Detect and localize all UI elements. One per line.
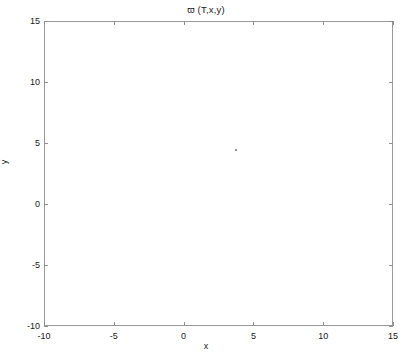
core-speck-marker [235, 149, 237, 151]
x-tick-label: 15 [388, 331, 398, 341]
y-axis-label: y [0, 160, 9, 165]
y-tick-label: 15 [10, 16, 40, 26]
y-tick-mark [44, 82, 48, 83]
y-tick-mark-right [389, 143, 393, 144]
x-tick-mark-top [393, 21, 394, 25]
y-tick-mark [44, 326, 48, 327]
x-tick-label: 5 [251, 331, 256, 341]
contour-line [180, 145, 244, 212]
x-tick-label: -10 [37, 331, 50, 341]
contour-line [131, 95, 291, 262]
y-tick-mark-right [389, 265, 393, 266]
contour-line [184, 149, 240, 207]
y-tick-label: 0 [10, 199, 40, 209]
y-tick-mark [44, 143, 48, 144]
y-tick-mark-right [389, 204, 393, 205]
x-tick-mark [184, 322, 185, 326]
contour-line [157, 121, 267, 236]
contour-lines [44, 21, 393, 326]
contour-line [81, 42, 342, 314]
contour-line [139, 103, 283, 253]
contour-line [75, 36, 348, 321]
y-tick-mark [44, 265, 48, 266]
x-tick-mark [393, 322, 394, 326]
x-tick-mark-top [323, 21, 324, 25]
x-axis-label: x [0, 341, 412, 351]
y-tick-label: -5 [10, 260, 40, 270]
x-tick-mark-top [184, 21, 185, 25]
y-tick-mark-right [389, 326, 393, 327]
contour-line [185, 151, 237, 205]
x-tick-mark-top [114, 21, 115, 25]
x-tick-label: 0 [181, 331, 186, 341]
contour-line [87, 49, 336, 308]
contour-line [135, 99, 287, 257]
x-tick-label: -5 [110, 331, 118, 341]
contour-line [153, 118, 269, 239]
contour-line [114, 76, 310, 280]
y-tick-mark-right [389, 82, 393, 83]
contour-figure: ϖ (T,x,y) -10-5051015-10-5051015 x y [0, 0, 412, 361]
y-tick-label: 10 [10, 77, 40, 87]
page-title: ϖ (T,x,y) [0, 4, 412, 15]
y-tick-label: -10 [10, 321, 40, 331]
y-tick-mark [44, 21, 48, 22]
x-tick-mark [114, 322, 115, 326]
contour-line [93, 55, 331, 303]
contour-line [98, 60, 324, 296]
x-tick-label: 10 [318, 331, 328, 341]
plot-axes [44, 21, 393, 326]
contour-line [118, 81, 304, 275]
y-tick-mark-right [389, 21, 393, 22]
x-tick-mark-top [253, 21, 254, 25]
contour-line [109, 71, 315, 285]
x-tick-mark [323, 322, 324, 326]
x-tick-mark [253, 322, 254, 326]
y-tick-label: 5 [10, 138, 40, 148]
contour-line [150, 114, 273, 242]
contour-line [147, 111, 277, 246]
y-tick-mark [44, 204, 48, 205]
contour-line [143, 107, 280, 250]
